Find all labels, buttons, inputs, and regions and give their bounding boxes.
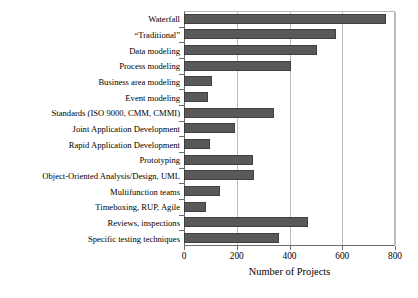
y-axis-label: Reviews, inspections — [0, 218, 180, 228]
y-axis-label: Business area modeling — [0, 77, 180, 87]
x-axis-tick-label: 400 — [270, 251, 310, 261]
bar — [184, 217, 308, 227]
bar-row — [184, 215, 395, 231]
bar-row — [184, 230, 395, 246]
bar-chart: Waterfall“Traditional”Data modelingProce… — [0, 0, 418, 298]
y-axis-label: Standards (ISO 9000, CMM, CMMI) — [0, 108, 180, 118]
y-axis-label: “Traditional” — [0, 30, 180, 40]
y-axis-label: Rapid Application Development — [0, 140, 180, 150]
bar — [184, 202, 206, 212]
bar-row — [184, 105, 395, 121]
y-axis-tick — [179, 42, 184, 43]
y-axis-tick — [179, 58, 184, 59]
bar-row — [184, 199, 395, 215]
bar — [184, 108, 274, 118]
y-axis-tick — [179, 74, 184, 75]
y-axis-tick — [179, 105, 184, 106]
y-axis-tick — [179, 230, 184, 231]
bar — [184, 155, 253, 165]
bar — [184, 29, 336, 39]
y-axis-label: Data modeling — [0, 46, 180, 56]
x-axis-tick-600 — [342, 246, 343, 250]
y-axis-label: Timeboxing, RUP, Agile — [0, 202, 180, 212]
bar-row — [184, 168, 395, 184]
bar — [184, 92, 208, 102]
y-axis-label: Object-Oriented Analysis/Design, UML — [0, 171, 180, 181]
y-axis-tick — [179, 215, 184, 216]
y-axis-label: Process modeling — [0, 61, 180, 71]
x-axis-tick-label: 0 — [164, 251, 204, 261]
bar-row — [184, 27, 395, 43]
bar-row — [184, 121, 395, 137]
y-axis-label: Joint Application Development — [0, 124, 180, 134]
x-axis-tick-0 — [184, 246, 185, 250]
bar — [184, 170, 254, 180]
bar — [184, 186, 220, 196]
y-axis-label: Prototyping — [0, 155, 180, 165]
x-axis-title: Number of Projects — [184, 266, 395, 277]
bar — [184, 139, 210, 149]
y-axis-label: Waterfall — [0, 14, 180, 24]
x-axis-tick-label: 200 — [217, 251, 257, 261]
x-axis-tick-400 — [290, 246, 291, 250]
bar-row — [184, 89, 395, 105]
y-axis-label: Specific testing techniques — [0, 234, 180, 244]
y-axis-label: Multifunction teams — [0, 187, 180, 197]
bar — [184, 45, 317, 55]
bar — [184, 61, 291, 71]
x-axis-tick-800 — [395, 246, 396, 250]
x-axis-tick-200 — [237, 246, 238, 250]
y-axis-tick — [179, 152, 184, 153]
gridline-800 — [395, 12, 396, 245]
y-axis-tick — [179, 136, 184, 137]
y-axis-tick — [179, 121, 184, 122]
bar-row — [184, 152, 395, 168]
y-axis-tick — [179, 89, 184, 90]
bar — [184, 76, 212, 86]
bar-row — [184, 11, 395, 27]
x-axis-tick-label: 800 — [375, 251, 415, 261]
y-axis-tick — [179, 27, 184, 28]
bar-row — [184, 74, 395, 90]
y-axis-label: Event modeling — [0, 93, 180, 103]
bar-row — [184, 136, 395, 152]
x-axis-tick-label: 600 — [322, 251, 362, 261]
bar — [184, 123, 235, 133]
y-axis-tick — [179, 168, 184, 169]
bar — [184, 233, 279, 243]
bar — [184, 14, 386, 24]
y-axis-tick — [179, 183, 184, 184]
bar-row — [184, 58, 395, 74]
y-axis-tick — [179, 199, 184, 200]
bar-row — [184, 42, 395, 58]
bar-row — [184, 183, 395, 199]
